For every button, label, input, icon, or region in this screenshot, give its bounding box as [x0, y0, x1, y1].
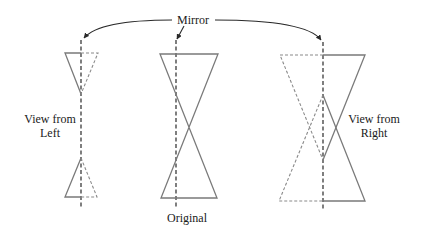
arrow-to-left-mirror	[84, 20, 172, 38]
right-solid-bottom	[323, 95, 365, 201]
original-figure	[160, 40, 218, 208]
right-dashed-top	[280, 55, 323, 160]
view-from-right-line1: View from	[344, 112, 404, 126]
left-top-dashed-half	[81, 53, 98, 94]
right-solid-top	[323, 55, 365, 160]
original-label: Original	[167, 211, 207, 225]
arrow-to-original-mirror	[177, 26, 184, 39]
left-bottom-solid-half	[65, 158, 81, 197]
right-dashed-bottom	[279, 95, 323, 201]
original-hourglass	[160, 54, 218, 198]
view-from-right-label: View from Right	[344, 112, 404, 140]
view-from-left-line1: View from	[20, 112, 80, 126]
mirror-reflection-diagram: Mirror View from Left View from Right Or…	[0, 0, 421, 235]
arrow-to-right-mirror	[215, 20, 321, 40]
view-from-right-line2: Right	[344, 126, 404, 140]
left-bottom-dashed-half	[81, 158, 97, 197]
view-from-left-label: View from Left	[20, 112, 80, 140]
mirror-label: Mirror	[177, 13, 209, 27]
left-top-solid-half	[65, 53, 81, 94]
view-from-left-line2: Left	[20, 126, 80, 140]
